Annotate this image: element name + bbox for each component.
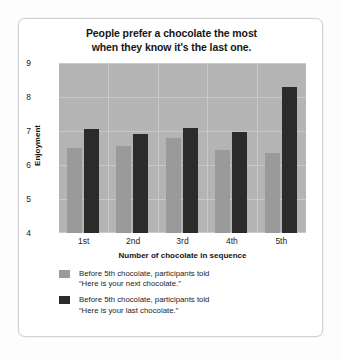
x-axis-tick-label: 1st — [60, 236, 108, 246]
bar-group — [158, 63, 207, 233]
bar-group — [59, 63, 108, 233]
x-axis-tick-label: 4th — [208, 236, 256, 246]
bar — [282, 87, 297, 233]
bar — [215, 150, 230, 233]
bar — [116, 146, 131, 233]
y-axis-tick-label: 5 — [11, 195, 31, 204]
legend-label-line: Before 5th chocolate, participants told — [79, 269, 309, 279]
legend-item: Before 5th chocolate, participants told“… — [59, 269, 309, 289]
legend-swatch — [59, 270, 70, 278]
bar-group — [257, 63, 306, 233]
y-axis-tick-label: 7 — [11, 127, 31, 136]
x-axis-tick-label: 5th — [257, 236, 305, 246]
legend-label-line: Before 5th chocolate, participants told — [79, 295, 309, 305]
legend-label-line: “Here is your last chocolate.” — [79, 306, 309, 316]
bar-group — [207, 63, 256, 233]
y-axis-label: Enjoyment — [33, 116, 42, 176]
bar — [166, 138, 181, 233]
bar — [84, 129, 99, 233]
bar-group — [108, 63, 157, 233]
x-axis-tick-label: 2nd — [109, 236, 157, 246]
legend-label-line: “Here is your next chocolate.” — [79, 279, 309, 289]
chart-title-line-2: when they know it's the last one. — [19, 41, 324, 55]
y-axis-tick-label: 9 — [11, 59, 31, 68]
x-axis-label: Number of chocolate in sequence — [59, 251, 306, 260]
x-axis-tick-label: 3rd — [159, 236, 207, 246]
bar — [183, 128, 198, 233]
chart-title-line-1: People prefer a chocolate the most — [19, 27, 324, 41]
y-axis-tick-label: 6 — [11, 161, 31, 170]
chart-title: People prefer a chocolate the most when … — [19, 27, 324, 54]
bar — [265, 153, 280, 233]
chart-legend: Before 5th chocolate, participants told“… — [59, 269, 309, 322]
bar — [67, 148, 82, 233]
chart-card: People prefer a chocolate the most when … — [18, 18, 323, 337]
y-axis-tick-label: 8 — [11, 93, 31, 102]
bar — [232, 132, 247, 233]
legend-swatch — [59, 296, 70, 304]
legend-label: Before 5th chocolate, participants told“… — [79, 269, 309, 289]
bar — [133, 134, 148, 233]
plot-area — [59, 63, 306, 233]
legend-item: Before 5th chocolate, participants told“… — [59, 295, 309, 315]
y-axis-tick-label: 4 — [11, 229, 31, 238]
legend-label: Before 5th chocolate, participants told“… — [79, 295, 309, 315]
